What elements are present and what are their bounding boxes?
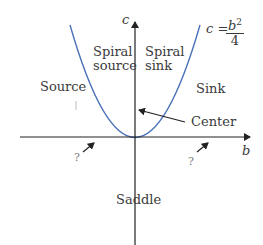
spiral-source-line2: source (93, 59, 137, 73)
equation-denominator: 4 (226, 34, 244, 48)
b-axis-label: b (242, 144, 250, 158)
center-arrow (139, 110, 185, 122)
center-label: Center (191, 115, 236, 129)
c-axis-label: c (122, 13, 129, 27)
spiral-sink-label: Spiral sink (145, 45, 185, 73)
sink-label: Sink (196, 82, 225, 96)
source-label: Source (40, 80, 86, 94)
unknown-left-label: ? (74, 151, 80, 165)
equation-exponent: 2 (236, 17, 242, 27)
equation-lhs: c = (206, 22, 228, 36)
spiral-source-line1: Spiral (93, 45, 137, 59)
right-question-arrow (197, 143, 208, 152)
spiral-source-label: Spiral source (93, 45, 137, 73)
saddle-label: Saddle (116, 193, 161, 207)
spiral-sink-line2: sink (145, 59, 185, 73)
spiral-sink-line1: Spiral (145, 45, 185, 59)
equation-fraction: b2 4 (226, 15, 244, 48)
unknown-right-label: ? (188, 155, 194, 169)
left-question-arrow (83, 143, 94, 152)
